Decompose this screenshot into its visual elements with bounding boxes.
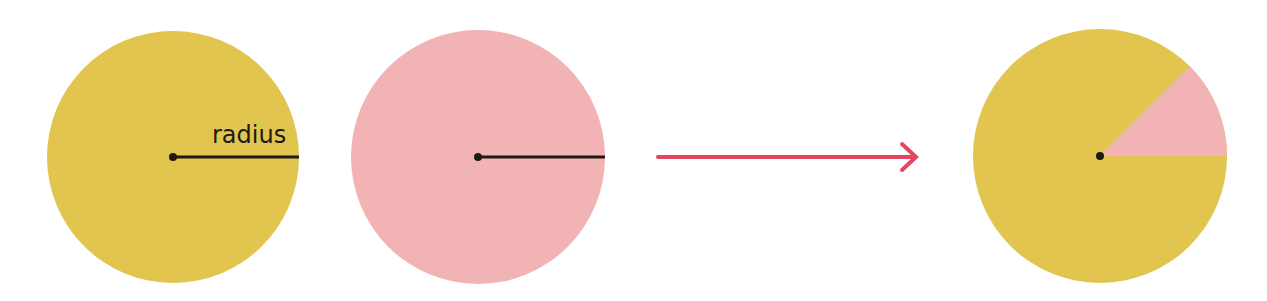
- center-dot: [474, 153, 482, 161]
- right-arrow-icon: [658, 144, 916, 170]
- radius-label: radius: [212, 121, 286, 149]
- center-dot: [1096, 152, 1104, 160]
- gold-circle-with-pink-sector: [973, 29, 1227, 283]
- gold-circle-with-radius: radius: [47, 31, 299, 283]
- center-dot: [169, 153, 177, 161]
- radius-diagram: radius: [0, 0, 1267, 301]
- pink-circle-with-radius: [351, 30, 605, 284]
